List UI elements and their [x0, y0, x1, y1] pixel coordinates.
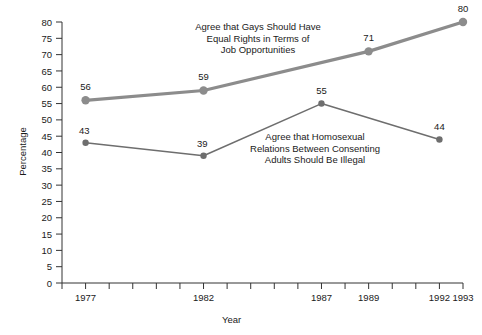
y-axis-tick-label: 50 — [41, 114, 52, 125]
y-axis-tick-label: 25 — [41, 196, 52, 207]
line-chart: 05101520253035404550556065707580 1977198… — [0, 0, 482, 335]
data-point-marker — [82, 140, 88, 146]
data-point-label: 55 — [316, 85, 327, 96]
y-axis-tick-label: 75 — [41, 33, 52, 44]
x-axis-tick-label: 1992 — [429, 292, 450, 303]
y-axis-tick-label: 30 — [41, 180, 52, 191]
y-axis-tick-label: 55 — [41, 98, 52, 109]
data-point-marker — [436, 136, 442, 142]
y-axis-tick-label: 0 — [47, 278, 52, 289]
data-point-marker — [364, 47, 372, 55]
y-axis-tick-label: 45 — [41, 131, 52, 142]
y-axis-tick-label: 35 — [41, 163, 52, 174]
y-axis-tick-label: 70 — [41, 49, 52, 60]
x-axis-tick-label: 1982 — [193, 292, 214, 303]
y-axis-tick-label: 65 — [41, 66, 52, 77]
data-point-label: 39 — [197, 138, 208, 149]
annotation-homosexual-relations-illegal: Agree that Homosexual Relations Between … — [236, 131, 394, 166]
x-axis-tick-label: 1993 — [452, 292, 473, 303]
y-axis-tick-label: 40 — [41, 147, 52, 158]
y-axis-title: Percentage — [17, 107, 28, 197]
y-axis-tick-label: 15 — [41, 229, 52, 240]
x-axis-title: Year — [222, 314, 241, 325]
y-axis: 05101520253035404550556065707580 — [41, 17, 62, 289]
x-axis-tick-label: 1989 — [358, 292, 379, 303]
data-point-marker — [81, 96, 89, 104]
data-point-label: 44 — [434, 121, 445, 132]
data-point-label: 43 — [79, 125, 90, 136]
data-point-marker — [199, 86, 207, 94]
data-point-marker — [459, 18, 467, 26]
data-point-label: 71 — [363, 32, 374, 43]
y-axis-tick-label: 80 — [41, 17, 52, 28]
y-axis-tick-label: 60 — [41, 82, 52, 93]
y-axis-tick-label: 20 — [41, 212, 52, 223]
x-axis: 197719821987198919921993 — [62, 283, 474, 303]
data-point-label: 59 — [198, 71, 209, 82]
x-axis-tick-label: 1977 — [75, 292, 96, 303]
data-point-label: 56 — [80, 81, 91, 92]
data-point-marker — [200, 153, 206, 159]
y-axis-tick-label: 10 — [41, 245, 52, 256]
x-axis-tick-label: 1987 — [311, 292, 332, 303]
y-axis-tick-label: 5 — [47, 261, 52, 272]
data-point-marker — [318, 100, 324, 106]
annotation-equal-rights: Agree that Gays Should Have Equal Rights… — [178, 21, 338, 56]
data-point-label: 80 — [458, 3, 469, 14]
